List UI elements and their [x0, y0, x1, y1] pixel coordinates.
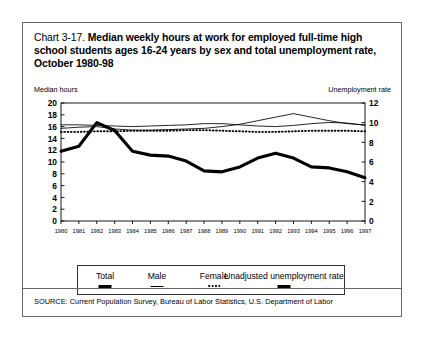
right-axis-tick-label: 0	[369, 216, 374, 226]
series-line-female	[61, 130, 365, 132]
x-axis-tick-label: 1989	[216, 228, 229, 234]
left-axis-tick-label: 4	[52, 193, 57, 203]
source-footer: SOURCE: Current Population Survey, Burea…	[23, 288, 401, 316]
x-axis-tick-label: 1983	[108, 228, 121, 234]
x-axis-tick-label: 1984	[126, 228, 139, 234]
plot-border	[61, 103, 365, 221]
x-axis-tick-label: 1988	[198, 228, 211, 234]
plot-area: 0246810121416182002468101219801981198219…	[34, 97, 392, 247]
chart-title-prefix: Chart 3-17.	[34, 32, 85, 43]
left-axis-tick-label: 2	[52, 204, 57, 214]
chart-title-main: Median weekly hours at work for employed…	[34, 32, 376, 69]
left-axis-tick-label: 0	[52, 216, 57, 226]
x-axis-tick-label: 1996	[341, 228, 354, 234]
x-axis-tick-label: 1986	[162, 228, 175, 234]
left-axis-tick-label: 6	[52, 181, 57, 191]
right-axis-tick-label: 2	[369, 197, 374, 207]
x-axis-tick-label: 1990	[233, 228, 246, 234]
left-axis-tick-label: 14	[48, 134, 58, 144]
left-axis-tick-label: 16	[48, 122, 58, 132]
x-axis-tick-label: 1980	[55, 228, 68, 234]
chart-svg: 0246810121416182002468101219801981198219…	[34, 97, 392, 247]
x-axis-tick-label: 1987	[180, 228, 193, 234]
x-axis-tick-label: 1994	[305, 228, 318, 234]
right-axis-tick-label: 12	[369, 98, 379, 108]
x-axis-tick-label: 1981	[73, 228, 86, 234]
left-axis-tick-label: 10	[48, 157, 58, 167]
right-axis-tick-label: 6	[369, 157, 374, 167]
legend-item-label: Unadjusted unemployment rate	[224, 271, 344, 282]
x-axis-tick-label: 1995	[323, 228, 336, 234]
left-axis-tick-label: 20	[48, 98, 58, 108]
x-axis-tick-label: 1982	[90, 228, 103, 234]
chart-title: Chart 3-17. Median weekly hours at work …	[34, 31, 386, 71]
right-axis-tick-label: 4	[369, 177, 374, 187]
chart-card: Chart 3-17. Median weekly hours at work …	[22, 22, 402, 317]
left-axis-tick-label: 8	[52, 169, 57, 179]
right-axis-tick-label: 10	[369, 118, 379, 128]
x-axis-tick-label: 1997	[359, 228, 372, 234]
source-text: SOURCE: Current Population Survey, Burea…	[34, 297, 333, 306]
x-axis-tick-label: 1985	[144, 228, 157, 234]
x-axis-tick-label: 1991	[251, 228, 264, 234]
left-axis-caption: Median hours	[34, 85, 78, 94]
left-axis-tick-label: 18	[48, 110, 58, 120]
right-axis-tick-label: 8	[369, 138, 374, 148]
x-axis-tick-label: 1992	[269, 228, 282, 234]
right-axis-caption: Unemployment rate	[328, 85, 391, 94]
x-axis-tick-label: 1993	[287, 228, 300, 234]
left-axis-tick-label: 12	[48, 145, 58, 155]
